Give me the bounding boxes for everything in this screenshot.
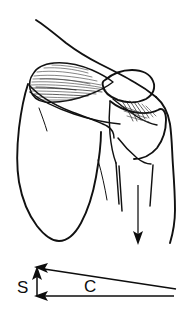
figure-background — [0, 0, 193, 310]
figure-canvas: S C — [0, 0, 193, 310]
vector-label-c: C — [84, 277, 96, 296]
vector-label-s: S — [17, 278, 28, 297]
shoulder-force-figure: S C — [0, 0, 193, 310]
